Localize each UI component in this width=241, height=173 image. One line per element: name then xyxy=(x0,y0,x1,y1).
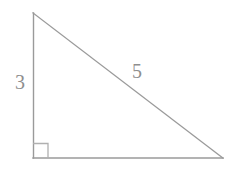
side-label-hypotenuse: 5 xyxy=(132,61,142,81)
triangle-drawing xyxy=(0,0,241,173)
triangle-figure: 3 5 xyxy=(0,0,241,173)
right-angle-marker-icon xyxy=(33,144,48,159)
side-label-vertical-leg: 3 xyxy=(15,72,25,92)
triangle-hypotenuse xyxy=(33,13,223,158)
